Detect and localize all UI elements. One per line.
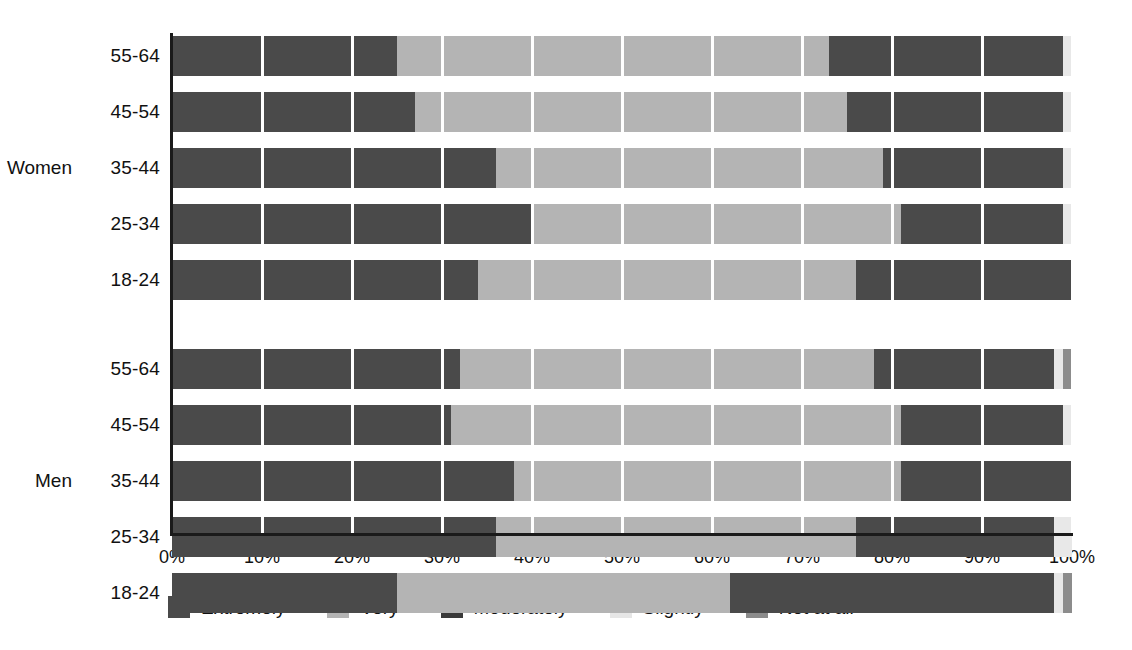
y-tick-label: 55-64 xyxy=(0,359,160,378)
bar-segment[interactable] xyxy=(1054,517,1072,557)
bar-segment[interactable] xyxy=(415,92,847,132)
group-label: Men xyxy=(0,471,72,490)
gridline xyxy=(711,30,714,533)
y-tick-label: 25-34 xyxy=(0,214,160,233)
y-tick-label: 55-64 xyxy=(0,46,160,65)
y-tick-label: 25-34 xyxy=(0,527,160,546)
bar-segment[interactable] xyxy=(847,92,1063,132)
bar-segment[interactable] xyxy=(514,461,901,501)
y-tick-label: 45-54 xyxy=(0,102,160,121)
gridline xyxy=(801,30,804,533)
bar-segment[interactable] xyxy=(1054,573,1063,613)
gridline xyxy=(441,30,444,533)
bar-segment[interactable] xyxy=(496,148,883,188)
gridline xyxy=(261,30,264,533)
y-axis-line xyxy=(170,33,173,535)
bar-segment[interactable] xyxy=(478,260,856,300)
bar-segment[interactable] xyxy=(883,148,1063,188)
gridline xyxy=(981,30,984,533)
bar-segment[interactable] xyxy=(460,349,874,389)
bar-segment[interactable] xyxy=(397,36,829,76)
y-tick-label: 18-24 xyxy=(0,270,160,289)
bar-segment[interactable] xyxy=(397,573,730,613)
bar-segment[interactable] xyxy=(874,349,1054,389)
bar-segment[interactable] xyxy=(172,260,478,300)
bar-segment[interactable] xyxy=(730,573,1054,613)
gridline xyxy=(351,30,354,533)
bar-segment[interactable] xyxy=(856,517,1054,557)
y-tick-label: 45-54 xyxy=(0,415,160,434)
bar-segment[interactable] xyxy=(172,573,397,613)
bar-segment[interactable] xyxy=(856,260,1072,300)
bar-segment[interactable] xyxy=(172,405,451,445)
x-axis-line xyxy=(170,533,1073,536)
gridline xyxy=(1071,30,1074,533)
bar-segment[interactable] xyxy=(172,349,460,389)
bar-segment[interactable] xyxy=(172,461,514,501)
group-label: Women xyxy=(0,158,72,177)
bar-segment[interactable] xyxy=(172,148,496,188)
plot-area xyxy=(172,30,1072,533)
bar-segment[interactable] xyxy=(532,204,901,244)
bar-segment[interactable] xyxy=(451,405,901,445)
gridline xyxy=(621,30,624,533)
bar-segment[interactable] xyxy=(172,36,397,76)
bar-row[interactable] xyxy=(172,573,1072,613)
gridline xyxy=(891,30,894,533)
bar-segment[interactable] xyxy=(172,517,496,557)
bar-segment[interactable] xyxy=(172,92,415,132)
y-tick-label: 18-24 xyxy=(0,583,160,602)
gridline xyxy=(531,30,534,533)
stacked-bar-chart: 55-6445-5435-4425-3418-2455-6445-5435-44… xyxy=(0,0,1132,650)
bar-segment[interactable] xyxy=(1054,349,1063,389)
bar-segment[interactable] xyxy=(901,461,1072,501)
bar-segment[interactable] xyxy=(1063,573,1072,613)
bar-segment[interactable] xyxy=(829,36,1063,76)
